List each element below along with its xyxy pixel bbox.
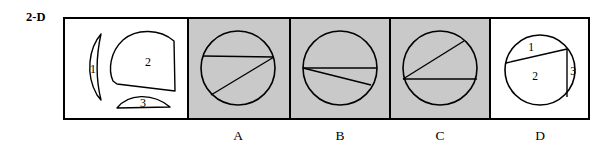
piece-2-label: 2: [145, 55, 151, 69]
option-letter-a[interactable]: A: [218, 128, 258, 144]
option-letter-c[interactable]: C: [420, 128, 460, 144]
option-letter-b[interactable]: B: [320, 128, 360, 144]
answer-options-figure: 1 2 3 1 2 3: [0, 0, 605, 157]
piece-3-label: 3: [140, 96, 146, 110]
figure-root: 2-D 1 2 3: [0, 0, 605, 157]
panel-background-c: [390, 18, 490, 118]
option-d-region-3-label: 3: [570, 65, 576, 77]
option-a-chord-horizontal: [203, 56, 274, 57]
option-d-region-2-label: 2: [532, 70, 538, 82]
option-d-region-1-label: 1: [528, 41, 534, 53]
piece-1-label: 1: [90, 62, 96, 76]
option-letter-d[interactable]: D: [520, 128, 560, 144]
